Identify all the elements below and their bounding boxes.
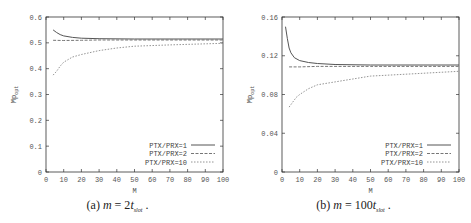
caption-a-eq: = 2 <box>112 198 131 212</box>
legend-label: PTX/PRX=10 <box>381 159 423 167</box>
x-tick-label: 90 <box>201 176 209 184</box>
y-tick-label: 0.1 <box>29 143 42 151</box>
y-tick-label: 0 <box>38 169 42 177</box>
x-tick-label: 10 <box>59 176 67 184</box>
x-tick-label: 60 <box>148 176 156 184</box>
caption-b-var: m <box>333 198 342 212</box>
caption-b-sub: slot <box>376 207 385 213</box>
line-chart-b: 010203040506070809010000.040.080.120.16M… <box>236 0 471 200</box>
line-chart-a: 010203040506070809010000.10.20.30.40.50.… <box>0 0 235 200</box>
series-line <box>53 43 223 75</box>
caption-b-prefix: (b) <box>316 198 333 212</box>
x-tick-label: 0 <box>280 176 284 184</box>
caption-b: (b) m = 100tslot . <box>236 198 471 213</box>
caption-a: (a) m = 2tslot . <box>0 198 235 213</box>
y-tick-label: 0.6 <box>29 14 42 22</box>
x-tick-label: 0 <box>44 176 48 184</box>
x-tick-label: 90 <box>437 176 445 184</box>
y-tick-label: 0 <box>274 169 278 177</box>
series-line <box>289 71 459 107</box>
series-line <box>53 30 223 39</box>
series-line <box>289 66 459 67</box>
legend-label: PTX/PRX=2 <box>149 150 187 158</box>
x-tick-label: 70 <box>166 176 174 184</box>
series-line <box>286 27 460 65</box>
caption-a-prefix: (a) <box>87 198 103 212</box>
legend-label: PTX/PRX=10 <box>145 159 187 167</box>
y-tick-label: 0.2 <box>29 117 42 125</box>
series-line <box>53 40 223 41</box>
chart-panel-a: 010203040506070809010000.10.20.30.40.50.… <box>0 0 235 223</box>
plot-frame <box>282 17 459 172</box>
x-tick-label: 50 <box>130 176 138 184</box>
y-tick-label: 0.3 <box>29 91 42 99</box>
x-tick-label: 80 <box>183 176 191 184</box>
legend-label: PTX/PRX=1 <box>149 142 187 150</box>
x-tick-label: 70 <box>402 176 410 184</box>
x-tick-label: 100 <box>217 176 230 184</box>
y-axis-label: Mpopt <box>10 86 20 103</box>
x-tick-label: 30 <box>95 176 103 184</box>
x-tick-label: 10 <box>295 176 303 184</box>
x-tick-label: 40 <box>349 176 357 184</box>
chart-panel-b: 010203040506070809010000.040.080.120.16M… <box>236 0 471 223</box>
x-tick-label: 60 <box>384 176 392 184</box>
legend-label: PTX/PRX=2 <box>385 150 423 158</box>
x-tick-label: 30 <box>331 176 339 184</box>
x-tick-label: 50 <box>366 176 374 184</box>
caption-b-eq: = 100 <box>342 198 373 212</box>
caption-b-suffix: . <box>385 198 391 212</box>
x-tick-label: 40 <box>113 176 121 184</box>
y-tick-label: 0.16 <box>261 14 278 22</box>
x-axis-label: M <box>368 187 372 195</box>
caption-a-var: m <box>103 198 112 212</box>
x-tick-label: 20 <box>77 176 85 184</box>
y-tick-label: 0.4 <box>29 65 42 73</box>
y-tick-label: 0.08 <box>261 91 278 99</box>
y-tick-label: 0.12 <box>261 52 278 60</box>
y-tick-label: 0.5 <box>29 39 42 47</box>
legend-label: PTX/PRX=1 <box>385 142 423 150</box>
x-tick-label: 100 <box>453 176 466 184</box>
y-axis-label: Mpopt <box>246 86 256 103</box>
y-tick-label: 0.04 <box>261 130 278 138</box>
x-tick-label: 20 <box>313 176 321 184</box>
caption-a-suffix: . <box>142 198 148 212</box>
x-axis-label: M <box>132 187 136 195</box>
x-tick-label: 80 <box>419 176 427 184</box>
